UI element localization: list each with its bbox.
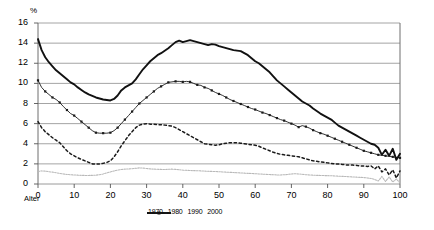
legend-label: 1990 bbox=[188, 208, 203, 215]
plot-area bbox=[0, 0, 434, 230]
age-distribution-chart: % 0246810121416 0102030405060708090100 A… bbox=[0, 0, 434, 230]
legend-label: 2000 bbox=[207, 208, 222, 215]
legend-item-1990[interactable]: 1990 bbox=[186, 208, 206, 215]
legend-swatch-2000 bbox=[146, 208, 172, 216]
chart-legend: 1970198019902000 bbox=[146, 208, 225, 215]
x-axis-title: Alter bbox=[24, 194, 39, 203]
legend-item-2000[interactable]: 2000 bbox=[205, 208, 225, 215]
